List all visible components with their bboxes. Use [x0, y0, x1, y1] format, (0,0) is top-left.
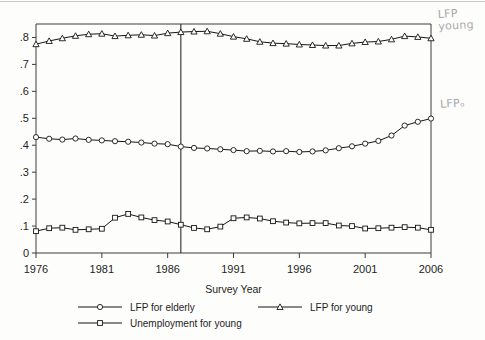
data-point-square: [284, 220, 289, 225]
data-point-square: [139, 215, 144, 220]
data-point-circle: [218, 147, 223, 152]
data-point-circle: [191, 145, 196, 150]
handwritten-note-lfp-old: LFPₒ: [440, 97, 465, 110]
data-point-square: [231, 216, 236, 221]
data-point-circle: [99, 138, 104, 143]
data-point-square: [297, 221, 302, 226]
data-point-circle: [284, 149, 289, 154]
data-point-square: [363, 226, 368, 231]
data-point-square: [336, 223, 341, 228]
data-point-square: [165, 219, 170, 224]
x-tick-label: 1986: [155, 263, 179, 275]
data-point-circle: [310, 149, 315, 154]
y-tick-label: .1: [20, 220, 29, 232]
data-point-circle: [152, 141, 157, 146]
data-point-square: [178, 222, 183, 227]
legend-item-2[interactable]: Unemployment for young: [78, 318, 242, 329]
x-tick-label: 2006: [419, 263, 443, 275]
data-point-circle: [297, 149, 302, 154]
data-point-square: [47, 226, 52, 231]
data-point-circle: [415, 119, 420, 124]
data-point-circle: [257, 148, 262, 153]
data-point-circle: [165, 142, 170, 147]
data-point-square: [113, 215, 118, 220]
data-point-circle: [86, 137, 91, 142]
y-tick-label: .4: [20, 139, 29, 151]
data-point-circle: [336, 146, 341, 151]
data-point-square: [126, 212, 131, 217]
data-point-circle: [178, 144, 183, 149]
data-point-circle: [376, 138, 381, 143]
handwritten-note-lfp-young: LFP young: [437, 7, 474, 32]
legend-label: LFP for elderly: [130, 302, 195, 313]
data-point-square: [350, 224, 355, 229]
data-point-square: [205, 227, 210, 232]
data-point-circle: [60, 137, 65, 142]
data-point-square: [244, 215, 249, 220]
x-tick-label: 1996: [287, 263, 311, 275]
data-point-circle: [244, 149, 249, 154]
data-point-square: [60, 225, 65, 230]
series-unemployment-for-young: [34, 212, 434, 234]
data-point-circle: [270, 149, 275, 154]
data-point-circle: [349, 144, 354, 149]
data-point-circle: [139, 140, 144, 145]
data-point-circle: [231, 147, 236, 152]
data-point-circle: [47, 136, 52, 141]
x-tick-label: 1976: [24, 263, 48, 275]
y-tick-label: .8: [20, 31, 29, 43]
data-point-square: [218, 224, 223, 229]
data-point-square: [429, 227, 434, 232]
data-point-circle: [97, 304, 102, 309]
y-tick-label: .7: [20, 58, 29, 70]
y-tick-label: .2: [20, 193, 29, 205]
y-tick-label: .6: [20, 85, 29, 97]
data-point-square: [98, 321, 103, 326]
legend-label: LFP for young: [310, 302, 373, 313]
y-tick-label: 0: [23, 247, 29, 259]
legend-item-1[interactable]: LFP for young: [258, 302, 373, 313]
data-point-square: [257, 216, 262, 221]
data-point-square: [310, 221, 315, 226]
data-point-square: [376, 226, 381, 231]
data-point-square: [415, 225, 420, 230]
legend-label: Unemployment for young: [130, 318, 242, 329]
series-line: [36, 119, 431, 152]
legend-item-0[interactable]: LFP for elderly: [78, 302, 195, 313]
data-point-circle: [389, 133, 394, 138]
x-tick-label: 1981: [90, 263, 114, 275]
data-point-square: [73, 227, 78, 232]
chart-legend: LFP for elderlyLFP for youngUnemployment…: [78, 302, 373, 329]
data-point-circle: [112, 139, 117, 144]
data-point-square: [323, 221, 328, 226]
data-point-square: [192, 226, 197, 231]
y-tick-label: .3: [20, 166, 29, 178]
y-tick-label: .5: [20, 112, 29, 124]
x-tick-label: 2001: [353, 263, 377, 275]
chart-figure: 0.1.2.3.4.5.6.7.819761981198619911996200…: [0, 0, 485, 340]
data-point-circle: [33, 135, 38, 140]
data-point-square: [99, 226, 104, 231]
series-lfp-for-elderly: [33, 116, 433, 155]
data-point-circle: [205, 146, 210, 151]
x-axis-title: Survey Year: [205, 283, 262, 295]
data-point-square: [389, 225, 394, 230]
data-point-circle: [428, 116, 433, 121]
data-point-circle: [402, 123, 407, 128]
data-point-square: [402, 225, 407, 230]
series-lfp-for-young: [33, 28, 434, 48]
x-tick-label: 1991: [221, 263, 245, 275]
data-point-square: [86, 227, 91, 232]
line-chart-plot: 0.1.2.3.4.5.6.7.819761981198619911996200…: [0, 0, 485, 340]
data-point-circle: [323, 148, 328, 153]
data-point-circle: [363, 141, 368, 146]
data-point-square: [34, 229, 39, 234]
data-point-square: [152, 218, 157, 223]
data-point-square: [271, 219, 276, 224]
data-point-circle: [73, 136, 78, 141]
data-point-circle: [126, 139, 131, 144]
